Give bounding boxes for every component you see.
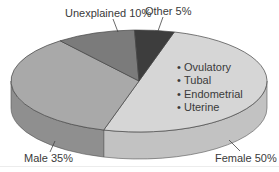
label-male: Male 35%: [24, 152, 73, 164]
label-unexplained: Unexplained 10%: [65, 7, 151, 19]
bullet-icon: •: [177, 74, 184, 87]
leader-unexplained: [113, 19, 118, 32]
female-causes-list: •Ovulatory •Tubal •Endometrial •Uterine: [177, 61, 243, 115]
bullet-icon: •: [177, 88, 184, 101]
bullet-item: •Tubal: [177, 74, 243, 87]
bullet-item: •Endometrial: [177, 88, 243, 101]
label-other: Other 5%: [145, 5, 191, 17]
bullet-item: •Uterine: [177, 101, 243, 114]
leader-other: [158, 17, 163, 31]
divider: [0, 166, 279, 167]
bullet-item: •Ovulatory: [177, 61, 243, 74]
bullet-icon: •: [177, 101, 184, 114]
label-female: Female 50%: [215, 152, 277, 164]
bullet-icon: •: [177, 61, 184, 74]
